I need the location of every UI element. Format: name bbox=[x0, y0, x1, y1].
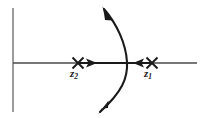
pole-label-z2: z2 bbox=[70, 68, 78, 79]
complex-plane-figure: z2 z1 bbox=[0, 0, 205, 118]
pole-label-z1-subscript: 1 bbox=[148, 72, 152, 81]
contour-arrow-top bbox=[103, 7, 113, 21]
pole-label-z2-subscript: 2 bbox=[74, 72, 78, 81]
figure-canvas bbox=[0, 0, 205, 118]
contour-arc bbox=[100, 9, 127, 112]
pole-label-z1: z1 bbox=[144, 68, 152, 79]
contour-arrow-bottom bbox=[98, 101, 109, 115]
